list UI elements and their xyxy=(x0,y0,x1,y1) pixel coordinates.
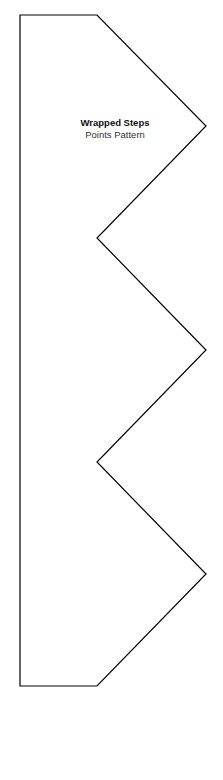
shape-subtitle: Points Pattern xyxy=(20,129,210,141)
shape-label: Wrapped Steps Points Pattern xyxy=(20,117,210,141)
points-pattern-outline xyxy=(20,15,206,686)
shape-title: Wrapped Steps xyxy=(20,117,210,129)
